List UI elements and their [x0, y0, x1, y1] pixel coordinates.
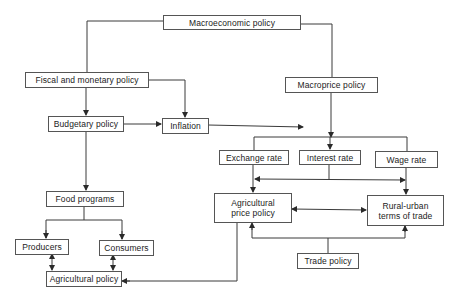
exchange-rate-box: Exchange rate [219, 150, 289, 165]
trade-policy-box: Trade policy [297, 253, 359, 269]
consumers-box: Consumers [99, 240, 154, 256]
agricultural-price-policy-box: Agricultural price policy [214, 193, 292, 223]
policy-flow-diagram: Macroeconomic policy Fiscal and monetary… [0, 0, 455, 299]
rural-urban-terms-of-trade-box: Rural-urban terms of trade [367, 195, 444, 226]
inflation-box: Inflation [162, 118, 209, 134]
food-programs-box: Food programs [46, 191, 124, 207]
macroeconomic-policy-box: Macroeconomic policy [163, 15, 301, 30]
macroprice-policy-box: Macroprice policy [285, 77, 378, 93]
interest-rate-box: Interest rate [299, 150, 361, 165]
fiscal-monetary-policy-box: Fiscal and monetary policy [25, 72, 149, 88]
wage-rate-box: Wage rate [375, 151, 438, 168]
budgetary-policy-box: Budgetary policy [48, 116, 124, 132]
agricultural-policy-box: Agricultural policy [46, 271, 122, 287]
producers-box: Producers [15, 239, 69, 255]
